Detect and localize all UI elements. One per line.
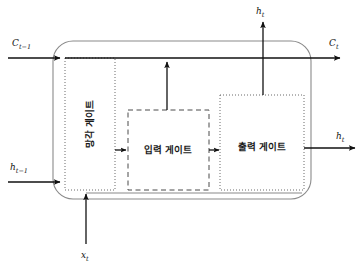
forget-gate-label: 망각 게이트 (84, 100, 95, 148)
input-gate-label: 입력 게이트 (144, 144, 192, 155)
label-cell-state-in: Ct−1 (12, 38, 31, 51)
label-cell-state-out-sub: t (336, 43, 339, 51)
label-cell-state-out: Ct (329, 38, 339, 51)
label-hidden-out-right-sub: t (342, 136, 345, 144)
label-hidden-in-sub: t−1 (16, 167, 28, 175)
label-hidden-in: ht−1 (10, 162, 28, 175)
label-input-x-sub: t (86, 255, 89, 263)
label-input-x: xt (81, 250, 89, 263)
lstm-diagram: Ct−1 Ct ht ht−1 ht xt 망각 게이트 입력 게이트 출력 게… (0, 0, 364, 263)
label-hidden-out-right: ht (336, 131, 345, 144)
label-hidden-out-top: ht (256, 6, 265, 19)
label-hidden-out-top-sub: t (262, 11, 265, 19)
output-gate-label: 출력 게이트 (238, 141, 286, 152)
label-cell-state-in-sub: t−1 (19, 43, 31, 51)
lstm-diagram-canvas: Ct−1 Ct ht ht−1 ht xt 망각 게이트 입력 게이트 출력 게… (0, 0, 364, 263)
